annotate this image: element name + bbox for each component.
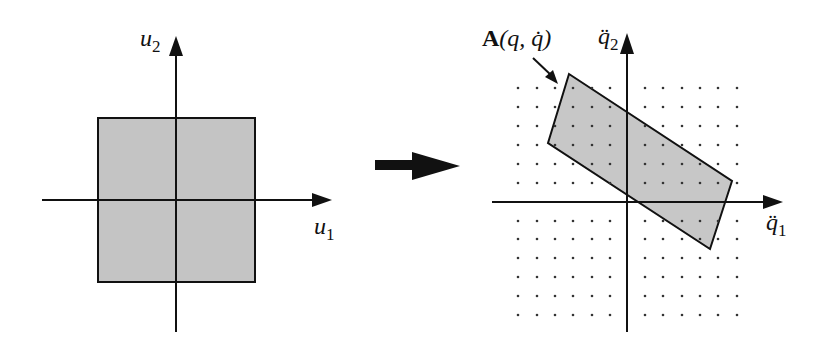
grid-dot — [609, 238, 612, 241]
grid-dot — [681, 257, 684, 260]
grid-dot — [572, 295, 575, 298]
q2dd-axis-label: q̈2 — [598, 24, 619, 53]
grid-dot — [717, 182, 720, 185]
pointer-arrow — [533, 58, 552, 76]
grid-dot — [736, 257, 739, 260]
figure-canvas — [0, 0, 822, 347]
grid-dot — [644, 144, 647, 147]
u2-axis-arrowhead-icon — [169, 36, 183, 56]
grid-dot — [517, 144, 520, 147]
grid-dot — [644, 106, 647, 109]
grid-dot — [736, 220, 739, 223]
grid-dot — [662, 276, 665, 279]
grid-dot — [717, 125, 720, 128]
grid-dot — [699, 144, 702, 147]
grid-dot — [681, 295, 684, 298]
grid-dot — [536, 106, 539, 109]
q2dd-subscript: 2 — [610, 35, 619, 54]
grid-dot — [554, 238, 557, 241]
grid-dot — [699, 125, 702, 128]
grid-dot — [681, 238, 684, 241]
grid-dot — [717, 106, 720, 109]
grid-dot — [662, 125, 665, 128]
parallelogram-label: A(q, q̇) — [482, 26, 551, 50]
grid-dot — [736, 182, 739, 185]
grid-dot — [572, 182, 575, 185]
grid-dot — [736, 314, 739, 317]
grid-dot — [699, 276, 702, 279]
grid-dot — [609, 295, 612, 298]
grid-dot — [536, 220, 539, 223]
u1-subscript: 1 — [326, 225, 335, 244]
grid-dot — [536, 125, 539, 128]
grid-dot — [591, 314, 594, 317]
grid-dot — [609, 276, 612, 279]
grid-dot — [662, 257, 665, 260]
grid-dot — [572, 106, 575, 109]
grid-dot — [591, 238, 594, 241]
left-panel — [42, 36, 332, 332]
grid-dot — [554, 276, 557, 279]
q2dd-symbol: q̈ — [598, 23, 610, 49]
grid-dot — [681, 220, 684, 223]
grid-dot — [736, 295, 739, 298]
grid-dot — [554, 144, 557, 147]
acceleration-parallelogram — [548, 74, 732, 249]
grid-dot — [662, 87, 665, 90]
grid-dot — [699, 163, 702, 166]
grid-dot — [591, 182, 594, 185]
grid-dot — [699, 257, 702, 260]
grid-dot — [591, 163, 594, 166]
grid-dot — [517, 220, 520, 223]
grid-dot — [681, 182, 684, 185]
grid-dot — [554, 125, 557, 128]
grid-dot — [609, 125, 612, 128]
grid-dot — [517, 295, 520, 298]
grid-dot — [644, 182, 647, 185]
grid-dot — [517, 238, 520, 241]
grid-dot — [609, 163, 612, 166]
grid-dot — [609, 87, 612, 90]
grid-dot — [572, 163, 575, 166]
grid-dot — [554, 163, 557, 166]
grid-dot — [662, 163, 665, 166]
grid-dot — [736, 125, 739, 128]
grid-dot — [699, 106, 702, 109]
grid-dot — [517, 125, 520, 128]
matrix-A-symbol: A — [482, 25, 499, 51]
q1dd-axis-arrowhead-icon — [763, 195, 783, 209]
grid-dot — [662, 314, 665, 317]
grid-dot — [572, 220, 575, 223]
grid-dot — [591, 144, 594, 147]
grid-dot — [736, 276, 739, 279]
grid-dot — [554, 87, 557, 90]
grid-dot — [517, 257, 520, 260]
grid-dot — [609, 220, 612, 223]
grid-dot — [609, 182, 612, 185]
grid-dot — [699, 220, 702, 223]
grid-dot — [736, 163, 739, 166]
grid-dot — [699, 314, 702, 317]
grid-dot — [517, 163, 520, 166]
grid-dot — [644, 276, 647, 279]
grid-dot — [572, 125, 575, 128]
grid-dot — [736, 144, 739, 147]
grid-dot — [644, 257, 647, 260]
grid-dot — [662, 238, 665, 241]
grid-dot — [572, 87, 575, 90]
grid-dot — [662, 220, 665, 223]
grid-dot — [644, 125, 647, 128]
grid-dot — [536, 182, 539, 185]
grid-dot — [699, 295, 702, 298]
grid-dot — [591, 276, 594, 279]
grid-dot — [699, 87, 702, 90]
q2dd-axis-arrowhead-icon — [620, 33, 634, 54]
grid-dot — [536, 295, 539, 298]
grid-dot — [662, 106, 665, 109]
grid-dot — [717, 220, 720, 223]
u2-subscript: 2 — [152, 37, 161, 56]
grid-dot — [517, 106, 520, 109]
grid-dot — [644, 87, 647, 90]
q1dd-symbol: q̈ — [766, 209, 778, 235]
grid-dot — [681, 144, 684, 147]
